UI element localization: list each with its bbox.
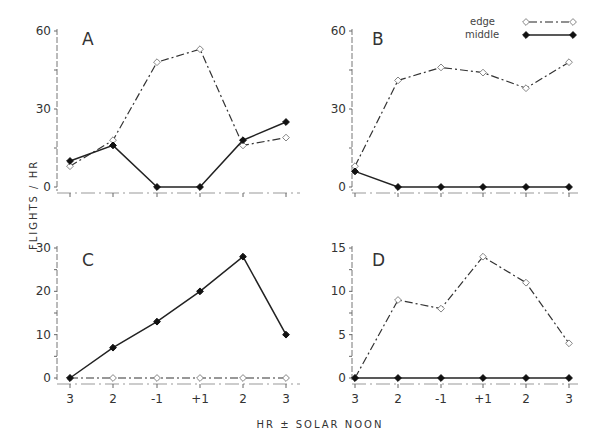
- y-tick-label: 20: [36, 284, 51, 298]
- panel-a: 03060A: [36, 24, 300, 197]
- data-point-edge: [110, 375, 117, 382]
- panel-d: 05101532-1+123D: [331, 241, 578, 406]
- legend-marker-middle: [523, 32, 530, 39]
- x-tick-label: 3: [565, 392, 573, 406]
- x-tick-label: 3: [66, 392, 74, 406]
- data-point-edge: [154, 375, 161, 382]
- legend-label-edge: edge: [470, 16, 495, 27]
- legend-label-middle: middle: [465, 29, 499, 40]
- data-point-edge: [480, 69, 487, 76]
- data-point-middle: [566, 375, 573, 382]
- data-point-edge: [197, 46, 204, 53]
- data-point-middle: [438, 184, 445, 191]
- data-point-middle: [283, 119, 290, 126]
- legend-marker-middle: [570, 32, 577, 39]
- data-point-middle: [523, 184, 530, 191]
- panel-label: B: [372, 29, 384, 49]
- panel-label: A: [82, 29, 94, 49]
- series-line-middle: [70, 257, 286, 378]
- y-tick-label: 0: [43, 180, 51, 194]
- data-point-edge: [523, 85, 530, 92]
- y-tick-label: 0: [338, 371, 346, 385]
- data-point-edge: [240, 375, 247, 382]
- data-point-middle: [566, 184, 573, 191]
- chart-figure: 03060A03060B010203032-1+123C05101532-1+1…: [0, 0, 597, 438]
- x-tick-label: +1: [474, 392, 492, 406]
- data-point-middle: [395, 184, 402, 191]
- series-line-edge: [355, 62, 569, 166]
- data-point-edge: [395, 77, 402, 84]
- panel-label: D: [372, 250, 385, 270]
- y-tick-label: 60: [36, 24, 51, 38]
- data-point-edge: [395, 297, 402, 304]
- data-point-middle: [352, 375, 359, 382]
- y-tick-label: 5: [338, 328, 346, 342]
- x-axis-title: HR ± SOLAR NOON: [257, 419, 384, 430]
- y-axis-title: FLIGHTS / HR: [28, 160, 39, 250]
- data-point-middle: [352, 168, 359, 175]
- x-tick-label: 3: [282, 392, 290, 406]
- legend: edgemiddle: [465, 16, 576, 40]
- y-tick-label: 30: [36, 102, 51, 116]
- data-point-middle: [480, 375, 487, 382]
- series-line-middle: [70, 122, 286, 187]
- panel-label: C: [82, 250, 94, 270]
- x-tick-label: 2: [239, 392, 247, 406]
- legend-marker-edge: [570, 19, 577, 26]
- x-tick-label: 3: [351, 392, 359, 406]
- y-tick-label: 60: [331, 24, 346, 38]
- data-point-edge: [283, 375, 290, 382]
- x-tick-label: -1: [151, 392, 163, 406]
- series-line-edge: [355, 257, 569, 378]
- data-point-edge: [154, 59, 161, 66]
- data-point-middle: [283, 331, 290, 338]
- data-point-middle: [395, 375, 402, 382]
- x-tick-label: 2: [394, 392, 402, 406]
- y-tick-label: 15: [331, 241, 346, 255]
- y-tick-label: 0: [43, 371, 51, 385]
- data-point-edge: [438, 305, 445, 312]
- data-point-edge: [283, 134, 290, 141]
- x-tick-label: -1: [435, 392, 447, 406]
- data-point-edge: [438, 64, 445, 71]
- y-tick-label: 10: [36, 328, 51, 342]
- y-tick-label: 10: [331, 284, 346, 298]
- legend-marker-edge: [523, 19, 530, 26]
- data-point-edge: [523, 279, 530, 286]
- panel-c: 010203032-1+123C: [36, 241, 300, 406]
- series-line-middle: [355, 171, 569, 187]
- data-point-edge: [566, 59, 573, 66]
- x-tick-label: +1: [191, 392, 209, 406]
- x-tick-label: 2: [522, 392, 530, 406]
- y-tick-label: 30: [331, 102, 346, 116]
- data-point-middle: [438, 375, 445, 382]
- panel-b: 03060B: [331, 24, 578, 197]
- data-point-middle: [480, 184, 487, 191]
- x-tick-label: 2: [109, 392, 117, 406]
- y-tick-label: 0: [338, 180, 346, 194]
- data-point-middle: [67, 158, 74, 165]
- data-point-edge: [197, 375, 204, 382]
- data-point-middle: [523, 375, 530, 382]
